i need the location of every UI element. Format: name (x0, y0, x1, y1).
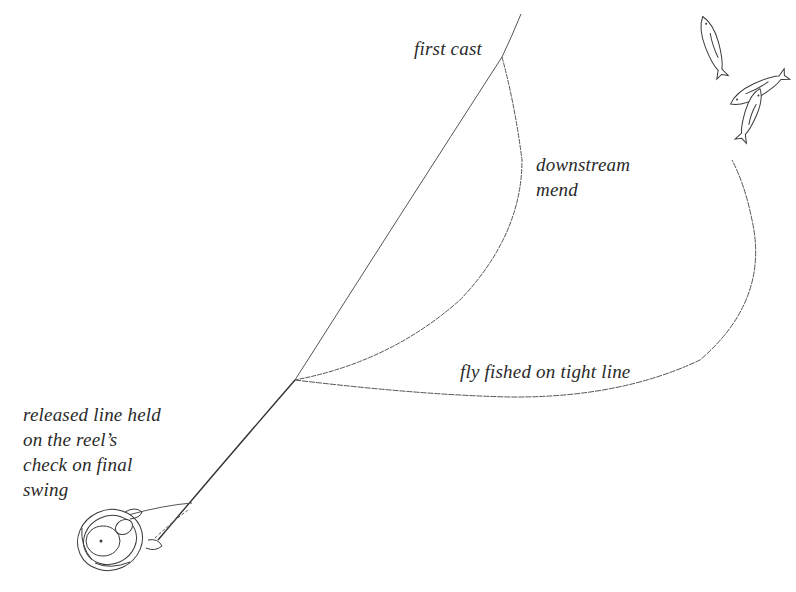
downstream-mend-line (295, 57, 522, 380)
first-cast-text: first cast (414, 36, 482, 61)
rod-line (158, 380, 295, 540)
released-line-line1: released line held (23, 402, 161, 427)
downstream-mend-label: downstream mend (536, 152, 630, 202)
diagram-canvas: first cast downstream mend fly fished on… (0, 0, 796, 592)
diagram-drawing (0, 0, 796, 592)
angler-reel-icon (67, 499, 192, 581)
released-line-line3: check on final (23, 452, 161, 477)
downstream-mend-line1: downstream (536, 152, 630, 177)
downstream-mend-line2: mend (536, 177, 630, 202)
first-cast-line (295, 14, 521, 380)
fly-fished-text: fly fished on tight line (460, 359, 631, 384)
fish-icon (696, 14, 729, 79)
released-line-line4: swing (23, 477, 161, 502)
fly-fished-label: fly fished on tight line (460, 359, 631, 384)
released-line-line2: on the reel’s (23, 427, 161, 452)
released-line-label: released line held on the reel’s check o… (23, 402, 161, 502)
first-cast-label: first cast (414, 36, 482, 61)
